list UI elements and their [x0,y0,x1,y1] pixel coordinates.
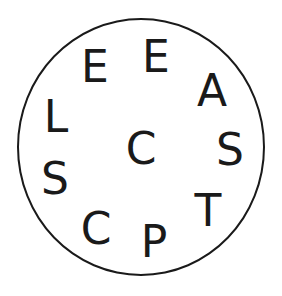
outer-letter-p: P [141,220,168,264]
center-letter: C [126,127,157,171]
outer-letter-a: A [197,69,227,113]
outer-letter-l: L [44,95,69,139]
outer-letter-s-2: S [41,157,69,201]
outer-letter-t: T [195,189,222,233]
outer-letter-e-2: E [142,35,170,79]
letter-wheel-puzzle: C E E A L S S T C P [0,0,282,296]
outer-letter-s-1: S [216,128,244,172]
outer-letter-c: C [81,207,112,251]
outer-letter-e-1: E [81,45,109,89]
